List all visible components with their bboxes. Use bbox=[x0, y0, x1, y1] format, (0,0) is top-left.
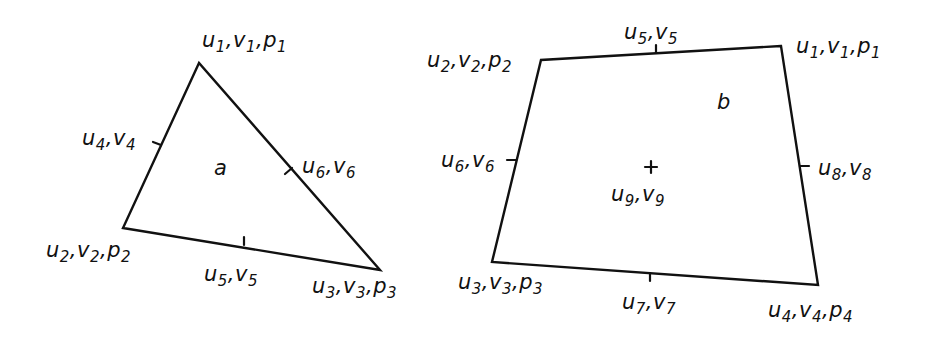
node-index: 4 bbox=[843, 308, 853, 326]
separator: , bbox=[842, 156, 849, 180]
node-index: 1 bbox=[216, 38, 226, 56]
node-label: u1,v1,p1 bbox=[202, 30, 287, 55]
node-label: u5,v5 bbox=[624, 22, 678, 47]
variable-symbol: u bbox=[204, 262, 218, 286]
variable-symbol: p bbox=[107, 238, 121, 262]
separator: , bbox=[482, 270, 489, 294]
node-index: 3 bbox=[387, 284, 397, 302]
variable-symbol: p bbox=[373, 274, 387, 298]
separator: , bbox=[226, 28, 233, 52]
variable-symbol: u bbox=[796, 34, 810, 58]
separator: , bbox=[648, 20, 655, 44]
node-index: 2 bbox=[90, 248, 100, 266]
node-index: 6 bbox=[455, 158, 465, 176]
node-label: u8,v8 bbox=[818, 158, 872, 183]
node-label: u4,v4 bbox=[82, 128, 136, 153]
node-index: 8 bbox=[862, 166, 872, 184]
node-label: u9,v9 bbox=[611, 184, 665, 209]
node-index: 1 bbox=[277, 38, 287, 56]
node-label: u2,v2,p2 bbox=[46, 240, 131, 265]
node-index: 4 bbox=[96, 136, 106, 154]
variable-symbol: v bbox=[653, 290, 666, 314]
variable-symbol: v bbox=[235, 262, 248, 286]
node-index: 4 bbox=[126, 136, 136, 154]
node-label: u6,v6 bbox=[302, 156, 356, 181]
variable-symbol: v bbox=[343, 274, 356, 298]
midside-node-tick bbox=[285, 168, 292, 174]
separator: , bbox=[646, 290, 653, 314]
node-index: 6 bbox=[316, 164, 326, 182]
node-index: 5 bbox=[668, 30, 678, 48]
variable-symbol: u bbox=[312, 274, 326, 298]
variable-symbol: v bbox=[472, 148, 485, 172]
element-label-a: a bbox=[214, 158, 227, 179]
node-index: 1 bbox=[871, 44, 881, 62]
node-index: 6 bbox=[485, 158, 495, 176]
node-index: 2 bbox=[502, 58, 512, 76]
variable-symbol: u bbox=[622, 290, 636, 314]
variable-symbol: v bbox=[489, 270, 502, 294]
node-index: 5 bbox=[218, 272, 228, 290]
node-label: u6,v6 bbox=[441, 150, 495, 175]
node-index: 4 bbox=[812, 308, 822, 326]
node-index: 3 bbox=[502, 280, 512, 298]
separator: , bbox=[326, 154, 333, 178]
separator: , bbox=[820, 34, 827, 58]
node-index: 3 bbox=[533, 280, 543, 298]
node-index: 9 bbox=[655, 192, 665, 210]
variable-symbol: p bbox=[263, 28, 277, 52]
variable-symbol: u bbox=[768, 298, 782, 322]
variable-symbol: p bbox=[519, 270, 533, 294]
node-index: 3 bbox=[356, 284, 366, 302]
variable-symbol: p bbox=[488, 48, 502, 72]
variable-symbol: u bbox=[302, 154, 316, 178]
node-index: 7 bbox=[636, 300, 646, 318]
variable-symbol: u bbox=[202, 28, 216, 52]
node-label: u2,v2,p2 bbox=[427, 50, 512, 75]
node-index: 7 bbox=[666, 300, 676, 318]
node-index: 2 bbox=[441, 58, 451, 76]
node-index: 6 bbox=[346, 164, 356, 182]
node-index: 2 bbox=[471, 58, 481, 76]
variable-symbol: v bbox=[77, 238, 90, 262]
variable-symbol: v bbox=[233, 28, 246, 52]
variable-symbol: u bbox=[818, 156, 832, 180]
node-index: 3 bbox=[472, 280, 482, 298]
node-index: 1 bbox=[840, 44, 850, 62]
variable-symbol: p bbox=[829, 298, 843, 322]
variable-symbol: v bbox=[113, 126, 126, 150]
variable-symbol: u bbox=[458, 270, 472, 294]
node-label: u5,v5 bbox=[204, 264, 258, 289]
node-label: u3,v3,p3 bbox=[312, 276, 397, 301]
node-label: u3,v3,p3 bbox=[458, 272, 543, 297]
node-index: 8 bbox=[832, 166, 842, 184]
separator: , bbox=[792, 298, 799, 322]
node-index: 3 bbox=[326, 284, 336, 302]
separator: , bbox=[70, 238, 77, 262]
node-index: 1 bbox=[810, 44, 820, 62]
node-label: u4,v4,p4 bbox=[768, 300, 853, 325]
variable-symbol: v bbox=[799, 298, 812, 322]
separator: , bbox=[635, 182, 642, 206]
separator: , bbox=[106, 126, 113, 150]
diagram-canvas: au1,v1,p1u2,v2,p2u3,v3,p3u4,v4u5,v5u6,v6… bbox=[0, 0, 936, 346]
midside-node-tick bbox=[153, 142, 161, 145]
variable-symbol: u bbox=[611, 182, 625, 206]
node-index: 2 bbox=[60, 248, 70, 266]
separator: , bbox=[451, 48, 458, 72]
variable-symbol: v bbox=[642, 182, 655, 206]
variable-symbol: v bbox=[458, 48, 471, 72]
variable-symbol: u bbox=[441, 148, 455, 172]
element-label-b: b bbox=[717, 92, 731, 113]
node-index: 5 bbox=[638, 30, 648, 48]
variable-symbol: v bbox=[849, 156, 862, 180]
variable-symbol: v bbox=[827, 34, 840, 58]
element-b bbox=[492, 45, 818, 285]
node-label: u7,v7 bbox=[622, 292, 676, 317]
node-label: u1,v1,p1 bbox=[796, 36, 881, 61]
variable-symbol: u bbox=[427, 48, 441, 72]
node-index: 1 bbox=[246, 38, 256, 56]
quadrilateral-outline bbox=[492, 46, 818, 285]
node-index: 4 bbox=[782, 308, 792, 326]
separator: , bbox=[228, 262, 235, 286]
